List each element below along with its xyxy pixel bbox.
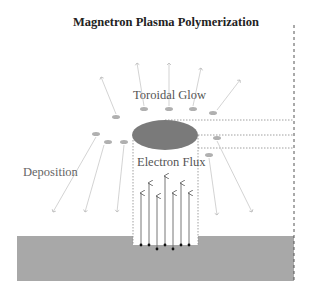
electron-flux-label: Electron Flux: [137, 155, 205, 170]
diagram-canvas: Magnetron Plasma Polymerization Toroidal…: [0, 0, 313, 297]
deposition-label: Deposition: [23, 165, 78, 180]
toroidal-glow-ellipse: [132, 120, 198, 150]
diagram-svg: [0, 0, 313, 297]
toroidal-glow-label: Toroidal Glow: [133, 88, 206, 103]
diagram-title: Magnetron Plasma Polymerization: [0, 15, 313, 30]
substrate: [17, 230, 294, 281]
